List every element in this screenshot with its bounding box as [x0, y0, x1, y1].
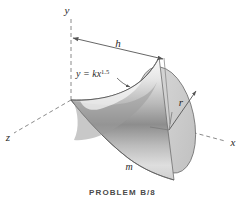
- figure-caption: PROBLEM B/8: [0, 188, 245, 197]
- radius-dimension-label: r: [179, 96, 184, 108]
- mass-label: m: [125, 161, 132, 172]
- z-axis-label: z: [5, 131, 11, 143]
- curve-equation-base: y = kx: [75, 68, 102, 79]
- y-axis-label: y: [64, 4, 70, 16]
- height-dimension-label: h: [115, 37, 121, 49]
- figure-canvas: y z x h r m y = kx1.5: [0, 0, 245, 202]
- curve-equation-exponent: 1.5: [101, 68, 109, 75]
- equation-leader-line: [117, 78, 130, 87]
- problem-figure: y z x h r m y = kx1.5 PROBLEM B/8: [0, 0, 245, 202]
- x-axis-label: x: [230, 136, 236, 148]
- z-axis-line: [14, 100, 71, 133]
- curve-equation-label: y = kx1.5: [75, 68, 109, 80]
